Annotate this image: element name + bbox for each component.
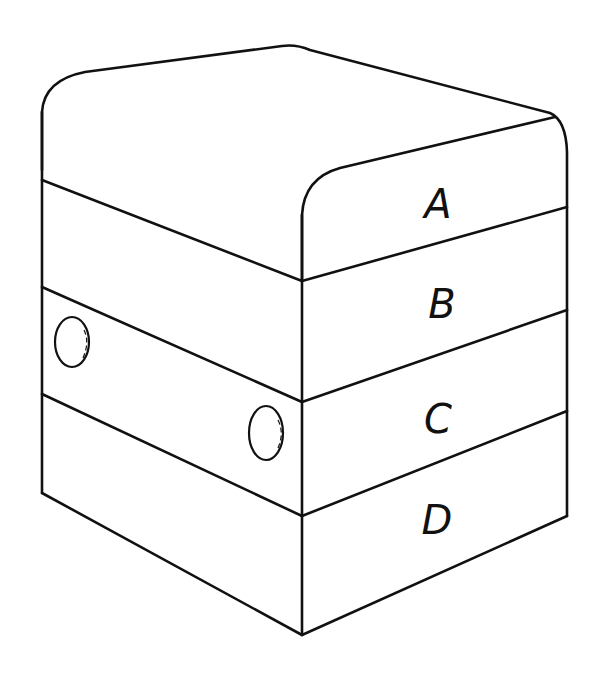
pin-right-icon (249, 406, 283, 460)
stacked-block-diagram: A B C D (0, 0, 598, 674)
label-c: C (424, 396, 452, 442)
label-a: A (421, 181, 451, 227)
label-d: D (422, 497, 453, 543)
pin-left-icon (55, 317, 89, 367)
diagram-svg: A B C D (0, 0, 598, 674)
left-bottom-edge (42, 493, 302, 635)
left-divider-ab (42, 180, 302, 281)
label-b: B (428, 281, 455, 327)
